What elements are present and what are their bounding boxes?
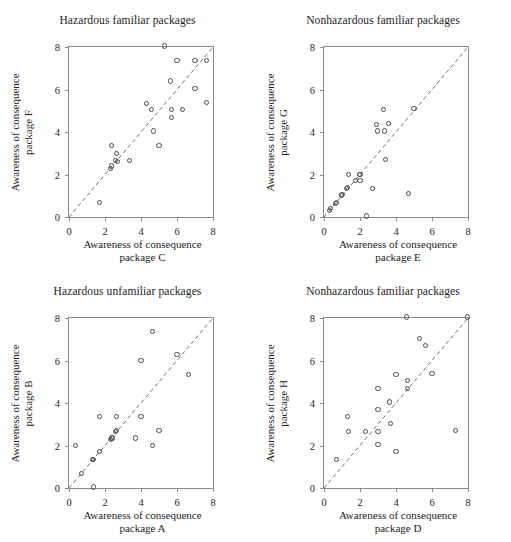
y-axis-tick-label: 6 xyxy=(55,84,60,95)
x-axis-title: Awareness of consequence package A xyxy=(34,509,251,534)
scatter-point xyxy=(386,121,391,126)
y-axis-title-line2: package H xyxy=(276,344,289,462)
x-axis-tick-label: 4 xyxy=(138,226,143,237)
x-axis-tick-label: 8 xyxy=(210,226,215,237)
scatter-point xyxy=(169,107,174,112)
x-axis-title-line2: package A xyxy=(34,522,251,535)
scatter-point xyxy=(405,386,410,391)
scatter-point xyxy=(375,407,380,412)
scatter-point xyxy=(411,106,416,111)
x-axis-tick xyxy=(177,488,178,492)
scatter-panel-hazardous-familiar: Hazardous familiar packages Awareness of… xyxy=(0,0,255,271)
panel-title: Nonhazardous familiar packages xyxy=(255,14,511,26)
x-axis-tick-label: 2 xyxy=(102,497,107,508)
plot-frame: 0246802468 xyxy=(323,317,469,489)
scatter-point xyxy=(174,352,179,357)
scatter-point xyxy=(114,428,119,433)
x-axis-tick xyxy=(396,217,397,221)
scatter-point xyxy=(393,372,398,377)
y-axis-title: Awareness of consequence package H xyxy=(263,317,289,489)
scatter-point xyxy=(334,457,339,462)
y-axis-tick-label: 4 xyxy=(310,398,315,409)
x-axis-tick xyxy=(432,488,433,492)
y-axis-tick xyxy=(320,132,324,133)
scatter-point xyxy=(114,414,119,419)
scatter-point xyxy=(156,428,161,433)
y-axis-tick xyxy=(320,403,324,404)
y-axis-tick xyxy=(65,175,69,176)
scatter-point xyxy=(115,159,120,164)
scatter-point xyxy=(382,128,387,133)
y-axis-tick-label: 6 xyxy=(55,355,60,366)
scatter-point xyxy=(339,192,344,197)
scatter-point xyxy=(168,78,173,83)
scatter-point xyxy=(144,101,149,106)
scatter-point xyxy=(375,429,380,434)
y-axis-tick-label: 2 xyxy=(55,169,60,180)
scatter-point xyxy=(97,449,102,454)
y-axis-tick-label: 6 xyxy=(310,84,315,95)
y-axis-tick-label: 4 xyxy=(55,127,60,138)
data-area: 0246802468 xyxy=(324,318,468,488)
scatter-point xyxy=(357,178,362,183)
scatter-point xyxy=(109,143,114,148)
y-axis-tick xyxy=(320,446,324,447)
y-axis-tick-label: 0 xyxy=(310,483,315,494)
x-axis-tick xyxy=(324,217,325,221)
x-axis-tick-label: 0 xyxy=(321,497,326,508)
x-axis-tick xyxy=(432,217,433,221)
y-axis-tick xyxy=(65,90,69,91)
scatter-point xyxy=(174,58,179,63)
plot-frame: 0246802468 xyxy=(68,317,214,489)
x-axis-tick xyxy=(213,217,214,221)
scatter-point xyxy=(169,115,174,120)
panel-title: Hazardous familiar packages xyxy=(0,14,255,26)
scatter-point xyxy=(328,206,333,211)
scatter-point xyxy=(387,399,392,404)
scatter-point xyxy=(345,185,350,190)
identity-reference-line xyxy=(69,47,213,217)
x-axis-tick xyxy=(468,488,469,492)
scatter-point xyxy=(91,457,96,462)
scatter-point xyxy=(150,329,155,334)
x-axis-title-line2: package E xyxy=(289,251,507,264)
y-axis-title-line1: Awareness of consequence xyxy=(9,73,21,191)
y-axis-title-line2: package F xyxy=(21,73,34,191)
y-axis-tick xyxy=(320,361,324,362)
scatter-point xyxy=(357,172,362,177)
x-axis-title-line1: Awareness of consequence xyxy=(339,238,457,250)
y-axis-tick-label: 0 xyxy=(55,212,60,223)
data-area: 0246802468 xyxy=(69,47,213,217)
x-axis-tick xyxy=(177,217,178,221)
scatter-point xyxy=(381,107,386,112)
x-axis-tick-label: 2 xyxy=(357,497,362,508)
scatter-point xyxy=(138,414,143,419)
x-axis-title: Awareness of consequence package C xyxy=(34,238,251,263)
x-axis-tick xyxy=(105,488,106,492)
panel-title: Hazardous unfamiliar packages xyxy=(0,285,255,297)
scatter-point xyxy=(192,58,197,63)
scatter-point xyxy=(97,200,102,205)
y-axis-title-line2: package G xyxy=(276,73,289,191)
scatter-point xyxy=(393,449,398,454)
scatter-point xyxy=(375,128,380,133)
x-axis-title: Awareness of consequence package E xyxy=(289,238,507,263)
x-axis-tick xyxy=(213,488,214,492)
scatter-point xyxy=(465,314,470,319)
x-axis-title-line1: Awareness of consequence xyxy=(339,509,457,521)
y-axis-tick-label: 8 xyxy=(310,42,315,53)
y-axis-title: Awareness of consequence package F xyxy=(8,46,34,218)
x-axis-tick-label: 6 xyxy=(429,226,434,237)
scatter-point xyxy=(150,443,155,448)
x-axis-tick xyxy=(69,488,70,492)
y-axis-title: Awareness of consequence package B xyxy=(8,317,34,489)
x-axis-tick xyxy=(396,488,397,492)
x-axis-tick-label: 6 xyxy=(174,226,179,237)
y-axis-tick xyxy=(65,488,69,489)
scatter-point xyxy=(127,158,132,163)
scatter-point xyxy=(406,191,411,196)
y-axis-tick xyxy=(320,90,324,91)
data-area: 0246802468 xyxy=(69,318,213,488)
scatter-point xyxy=(204,100,209,105)
scatter-point xyxy=(162,43,167,48)
